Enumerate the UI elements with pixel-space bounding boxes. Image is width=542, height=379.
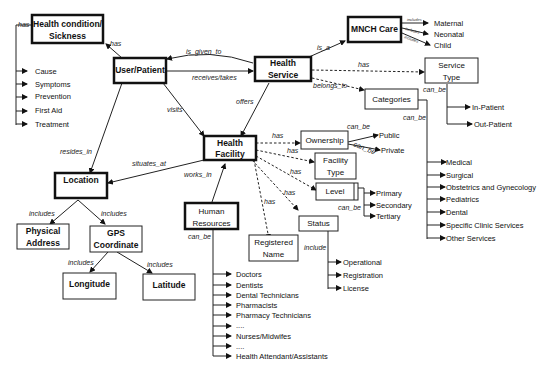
list-item: Pharmacy Technicians [236,311,311,320]
svg-text:Facility: Facility [215,149,245,159]
edge-label-can-be: can_be [347,123,370,130]
list-item: Secondary [376,201,412,210]
list-item: Symptoms [35,80,71,89]
svg-text:Ownership: Ownership [305,136,344,145]
edge-label-has: has [264,198,276,205]
svg-text:MNCH Care: MNCH Care [351,24,398,34]
edge-label-has: has [287,147,299,154]
edge-label-has: has [358,61,370,68]
edge-label-belongs-to: belongs_to [313,82,347,90]
edge-label-has: has [284,189,296,196]
edge-label-includes: includes [405,26,420,35]
condition-list-bracket [16,25,32,125]
svg-text:Human: Human [199,207,225,216]
list-item: .... [236,321,244,330]
list-item: .... [236,342,244,351]
svg-text:Health: Health [217,138,243,148]
edge-label-offers: offers [236,98,254,105]
edge-label-includes: includes [29,210,55,217]
hr-items-list: Doctors Dentists Dental Technicians Phar… [236,270,328,361]
list-item: Prevention [35,92,71,101]
svg-text:Longitude: Longitude [69,279,110,289]
edge-label-is-given-to: is_given_to [186,48,222,56]
list-item: First Aid [35,106,62,115]
list-item: Child [434,41,451,50]
list-item: Other Services [446,234,496,243]
list-item: Dental [446,208,468,217]
node-status: Status [299,216,338,231]
svg-text:Latitude: Latitude [152,280,185,290]
list-item: Surgical [446,171,473,180]
edge-label-include: include [304,244,326,251]
node-health-facility: Health Facility [204,136,256,160]
edge-label-can-be: can_be [338,204,361,211]
node-gps-coordinate: GPS Coordinate [90,226,142,252]
health-ontology-diagram: has has is_given_to receives/takes is_a … [0,0,542,379]
edge-label-includes: includes [101,210,127,217]
edge-label-situates-at: situates_at [132,160,167,167]
edge-label-includes: includes [68,259,94,266]
edge-label-has: has [110,40,122,47]
node-level: Level [316,183,358,200]
list-item: Out-Patient [474,120,513,129]
node-service-type: Service Type [425,58,478,83]
svg-text:Sickness: Sickness [49,31,86,41]
edge-label-receives-takes: receives/takes [192,74,237,81]
edge-label-includes: includes [147,261,173,268]
svg-text:Registered: Registered [254,238,293,247]
edge-label-includes: includes [407,17,422,22]
list-item: Specific Clinic Services [446,221,524,230]
node-user-patient: User/Patient [114,58,166,83]
edge-label-works-in: works_in [184,171,212,178]
svg-text:Location: Location [63,175,98,185]
svg-text:Type: Type [327,168,345,177]
list-item: Dental Technicians [236,291,299,300]
svg-text:Physical: Physical [26,226,61,236]
edge-label-is-a: is_a [317,44,330,51]
list-item: Tertiary [376,212,401,221]
list-item: Cause [35,67,57,76]
edge-label-includes: includes [404,34,420,44]
svg-text:Name: Name [263,250,285,259]
status-items-list: Operational Registration License [343,258,383,293]
svg-text:Level: Level [325,187,344,196]
node-health-condition: Health condition/ Sickness [32,15,103,43]
edge-label-has: has [18,21,30,28]
list-item: Health Attendant/Assistants [236,352,328,361]
svg-text:User/Patient: User/Patient [115,65,165,75]
list-item: Medical [446,158,472,167]
list-item: Primary [376,189,402,198]
list-item: Treatment [35,120,70,129]
node-latitude: Latitude [143,274,195,300]
node-registered-name: Registered Name [249,235,298,261]
category-items-list: Medical Surgical Obstetrics and Gynecolo… [446,158,536,243]
list-item: In-Patient [472,103,505,112]
edge-label-can-be: can_be [188,233,211,240]
list-item: Pediatrics [446,195,479,204]
list-item: Dentists [236,281,263,290]
edge-label-has: has [272,132,284,139]
edge-label-resides-in: resides_in [60,148,92,155]
mnch-items-list: Maternal Neonatal Child [434,19,464,50]
list-item: Maternal [434,19,464,28]
node-longitude: Longitude [63,273,116,299]
node-human-resources: Human Resources [185,203,238,229]
node-location: Location [55,173,107,198]
condition-items-list: Cause Symptoms Prevention First Aid Trea… [35,67,71,129]
service-type-items-list: In-Patient Out-Patient [472,103,513,129]
svg-text:Categories: Categories [372,95,411,104]
svg-text:Address: Address [26,238,60,248]
node-physical-address: Physical Address [17,224,69,249]
list-item: Public [379,131,400,140]
svg-text:Type: Type [443,73,461,82]
list-item: Doctors [236,270,262,279]
list-item: Registration [343,271,383,280]
list-item: Pharmacists [236,301,278,310]
svg-text:GPS: GPS [107,228,125,238]
node-health-service: Health Service [255,57,311,81]
svg-text:Service: Service [268,70,299,80]
svg-text:Coordinate: Coordinate [94,240,139,250]
node-facility-type: Facility Type [315,153,356,179]
list-item: License [343,284,369,293]
svg-text:Service: Service [438,61,465,70]
